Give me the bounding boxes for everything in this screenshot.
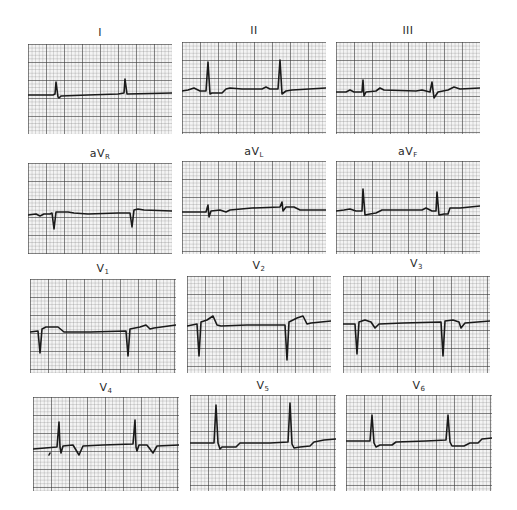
ecg-trace [187, 276, 331, 373]
lead-label: III [336, 24, 480, 38]
ecg-grid [336, 161, 480, 254]
lead-panel-V6: V6 [346, 379, 492, 491]
lead-label: aVL [182, 145, 326, 159]
ecg-grid [28, 163, 172, 254]
ecg-trace [190, 395, 336, 491]
ecg-grid [336, 42, 480, 134]
ecg-grid [182, 161, 326, 254]
ecg-trace [30, 279, 176, 373]
lead-panel-V4: V4 [33, 381, 179, 491]
lead-label: V2 [187, 259, 331, 273]
ecg-trace [346, 395, 492, 491]
lead-label: aVF [336, 145, 480, 159]
ecg-trace [28, 163, 172, 254]
lead-label: V3 [343, 257, 490, 271]
ecg-trace [33, 397, 179, 491]
ecg-trace [343, 276, 490, 373]
lead-panel-aVL: aVL [182, 145, 326, 254]
lead-panel-aVF: aVF [336, 145, 480, 254]
lead-panel-III: III [336, 24, 480, 134]
ecg-grid [182, 42, 326, 134]
lead-panel-V5: V5 [190, 379, 336, 491]
ecg-grid [33, 397, 179, 491]
lead-label: V4 [33, 381, 179, 395]
ecg-grid [28, 44, 172, 134]
lead-label: V5 [190, 379, 336, 393]
lead-label: aVR [28, 147, 172, 161]
lead-label: II [182, 24, 326, 38]
ecg-grid [190, 395, 336, 491]
lead-panel-V3: V3 [343, 257, 490, 373]
lead-label: V1 [30, 262, 176, 276]
lead-label: I [28, 26, 172, 40]
lead-panel-aVR: aVR [28, 147, 172, 254]
ecg-grid [346, 395, 492, 491]
ecg-grid [187, 276, 331, 373]
ecg-trace [182, 42, 326, 134]
ecg-trace [28, 44, 172, 134]
lead-panel-V1: V1 [30, 262, 176, 373]
lead-panel-I: I [28, 26, 172, 134]
lead-panel-V2: V2 [187, 259, 331, 373]
lead-panel-II: II [182, 24, 326, 134]
lead-label: V6 [346, 379, 492, 393]
ecg-trace [336, 161, 480, 254]
ecg-trace [336, 42, 480, 134]
ecg-grid [30, 279, 176, 373]
ecg-grid [343, 276, 490, 373]
ecg-trace [182, 161, 326, 254]
